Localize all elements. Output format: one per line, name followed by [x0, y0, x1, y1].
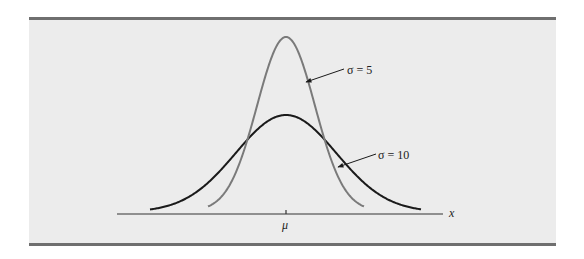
sigma-10-curve	[150, 115, 421, 209]
sigma-5-curve	[208, 37, 364, 206]
normal-distribution-chart: σ = 5 σ = 10 μ x	[0, 0, 584, 259]
sigma-5-label: σ = 5	[347, 63, 372, 77]
mu-label: μ	[281, 218, 288, 232]
sigma-10-label: σ = 10	[378, 148, 409, 162]
sigma-5-arrow	[306, 69, 344, 82]
x-axis-label: x	[448, 206, 455, 220]
